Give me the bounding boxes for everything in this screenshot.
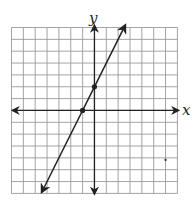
coordinate-graph: x y bbox=[0, 0, 196, 212]
stray-mark bbox=[165, 159, 167, 161]
x-axis-label: x bbox=[182, 101, 191, 119]
marked-point bbox=[92, 84, 97, 89]
marked-point bbox=[80, 108, 85, 113]
y-axis-label: y bbox=[88, 9, 98, 27]
